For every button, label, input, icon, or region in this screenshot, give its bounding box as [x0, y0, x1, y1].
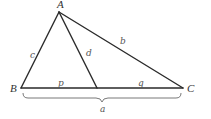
side-label-c: c [30, 50, 35, 60]
side-c-line [21, 12, 59, 88]
vertex-label-b: B [10, 82, 17, 94]
triangle-diagram: A B C c d b p q a [0, 0, 211, 119]
brace-a [23, 93, 181, 102]
segment-label-q: q [138, 78, 144, 88]
brace-label-a: a [100, 104, 105, 114]
side-label-d: d [86, 48, 92, 58]
side-label-b: b [120, 36, 126, 46]
vertex-label-c: C [187, 82, 195, 94]
vertex-label-a: A [56, 0, 64, 10]
segment-label-p: p [58, 78, 64, 88]
